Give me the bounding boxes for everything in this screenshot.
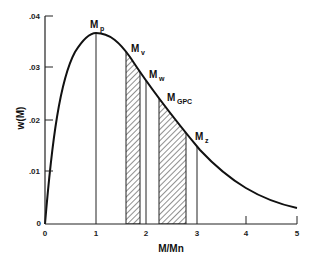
x-tick-label: 2: [144, 229, 149, 238]
y-tick-label: 0: [37, 219, 42, 228]
svg-text:w: w: [158, 75, 165, 82]
svg-text:M: M: [90, 19, 98, 30]
hatched-region-mv: [126, 0, 140, 224]
svg-text:v: v: [141, 49, 145, 56]
chart-svg: .04 .03 .02 .01 0 0 1 2 3 4 5 M/Mn w(M) …: [0, 0, 312, 262]
annotation-mv: M v: [131, 43, 145, 56]
annotation-mw: M w: [149, 69, 165, 82]
x-tick-label: 3: [195, 229, 200, 238]
y-axis-label: w(M): [15, 107, 26, 131]
y-tick-label: .02: [29, 116, 41, 125]
svg-text:M: M: [149, 69, 157, 80]
x-tick-label: 1: [94, 229, 99, 238]
hatched-regions: [96, 0, 197, 224]
x-tick-label: 0: [43, 229, 48, 238]
y-tick-label: .04: [29, 12, 41, 21]
svg-text:M: M: [131, 43, 139, 54]
svg-text:p: p: [100, 25, 104, 33]
hatched-region-mgpc: [159, 0, 186, 224]
x-ticks: [246, 216, 297, 224]
svg-text:z: z: [205, 137, 209, 144]
annotation-mp: M p: [90, 19, 104, 33]
y-tick-label: .01: [29, 167, 41, 176]
x-tick-label: 4: [244, 229, 249, 238]
y-tick-label: .03: [29, 63, 41, 72]
x-tick-label: 5: [295, 229, 300, 238]
annotation-mz: M z: [195, 131, 209, 144]
annotation-mgpc: M GPC: [167, 92, 192, 105]
x-axis-label: M/Mn: [158, 243, 184, 254]
svg-text:GPC: GPC: [177, 98, 192, 105]
svg-text:M: M: [167, 92, 175, 103]
svg-text:M: M: [195, 131, 203, 142]
